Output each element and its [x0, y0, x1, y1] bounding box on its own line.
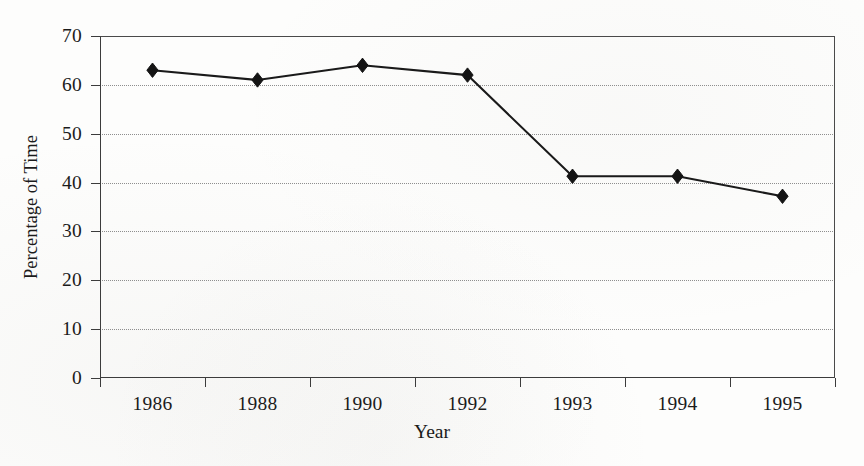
- y-tick-mark: [91, 329, 100, 330]
- y-tick-label: 60: [62, 75, 82, 95]
- line-chart-figure: Percentage of Time 010203040506070 19861…: [0, 0, 864, 466]
- x-tick-label: 1995: [730, 394, 835, 414]
- y-tick-label: 10: [62, 319, 82, 339]
- y-tick-label: 20: [62, 270, 82, 290]
- data-point-marker: [777, 189, 788, 203]
- y-tick-mark: [91, 183, 100, 184]
- x-tick-label: 1994: [625, 394, 730, 414]
- y-tick-mark: [91, 36, 100, 37]
- x-tick-label: 1988: [205, 394, 310, 414]
- x-tick-mark: [100, 378, 101, 387]
- x-tick-mark: [205, 378, 206, 387]
- y-tick-mark: [91, 378, 100, 379]
- x-tick-mark: [625, 378, 626, 387]
- x-tick-label: 1986: [100, 394, 205, 414]
- data-point-marker: [672, 169, 683, 183]
- x-tick-label: 1990: [310, 394, 415, 414]
- y-tick-label: 70: [62, 26, 82, 46]
- y-tick-mark: [91, 231, 100, 232]
- x-tick-mark: [415, 378, 416, 387]
- y-tick-mark: [91, 134, 100, 135]
- y-tick-label: 40: [62, 173, 82, 193]
- y-tick-mark: [91, 85, 100, 86]
- x-tick-label: 1993: [520, 394, 625, 414]
- x-tick-mark: [835, 378, 836, 387]
- data-point-marker: [357, 58, 368, 72]
- series-line: [153, 65, 783, 196]
- y-tick-label: 0: [72, 368, 82, 388]
- y-tick-mark: [91, 280, 100, 281]
- data-point-marker: [147, 63, 158, 77]
- data-series-layer: [100, 36, 835, 378]
- x-tick-label: 1992: [415, 394, 520, 414]
- y-axis-title: Percentage of Time: [18, 36, 44, 378]
- plot-area: [100, 36, 835, 378]
- data-point-marker: [252, 73, 263, 87]
- x-axis-title: Year: [0, 421, 864, 443]
- x-tick-mark: [730, 378, 731, 387]
- y-tick-label: 50: [62, 124, 82, 144]
- x-tick-mark: [520, 378, 521, 387]
- y-tick-label: 30: [62, 221, 82, 241]
- series-markers: [147, 58, 788, 203]
- x-tick-mark: [310, 378, 311, 387]
